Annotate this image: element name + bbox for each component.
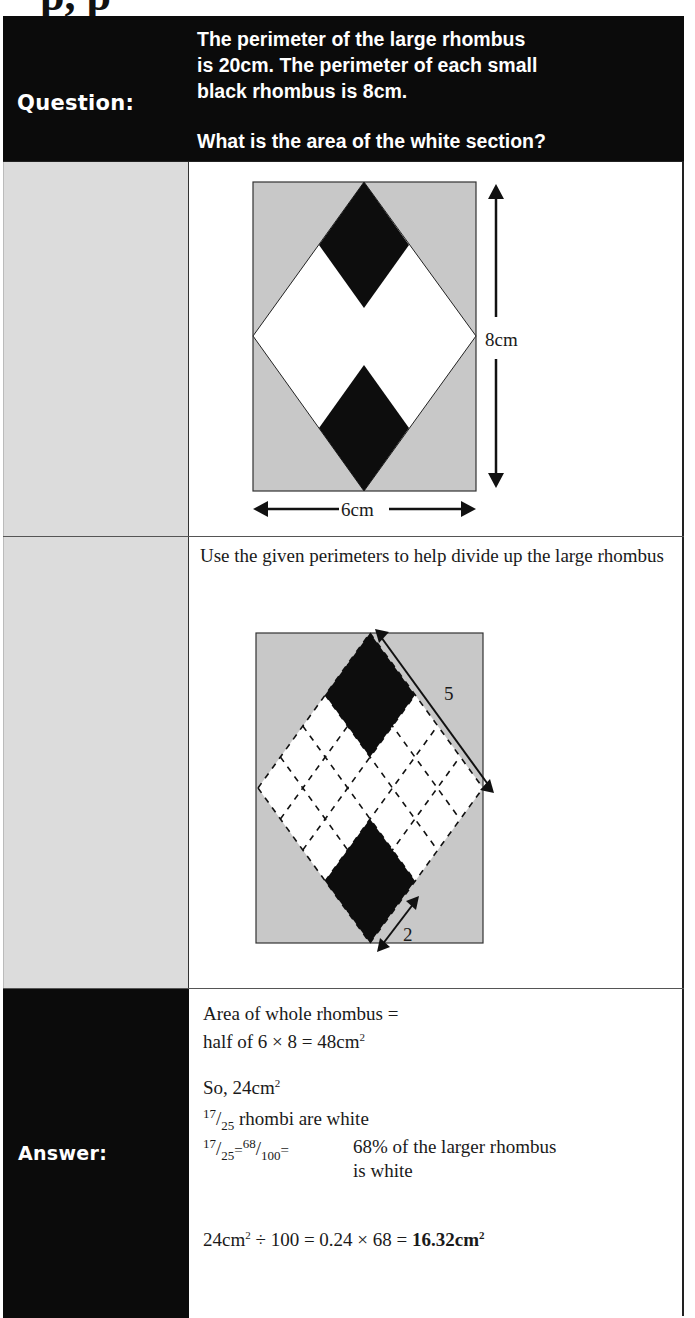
answer-line-5-text: 68% of the larger rhombus	[353, 1136, 556, 1158]
question-label: Question:	[17, 91, 134, 115]
answer-text: half of 6 × 8 = 48cm	[203, 1031, 360, 1052]
answer-line-1: Area of whole rhombus =	[203, 1003, 398, 1025]
answer-label: Answer:	[18, 1142, 107, 1164]
fraction-denominator: 25	[221, 1118, 234, 1133]
answer-label-cell: Answer:	[3, 989, 189, 1318]
question-line: black rhombus is 8cm.	[197, 80, 407, 102]
answer-text: is white	[353, 1160, 413, 1181]
answer-line-5: 17/25=68/100=	[203, 1136, 289, 1164]
question-prompt: What is the area of the white section?	[197, 128, 677, 154]
fraction-numerator: 17	[203, 1136, 216, 1151]
final-answer: 16.32cm	[412, 1229, 479, 1250]
answer-line-6: 24cm2 ÷ 100 = 0.24 × 68 = 16.32cm2	[203, 1229, 485, 1251]
answer-text: 68% of the larger rhombus	[353, 1136, 556, 1157]
answer-text: ÷ 100 = 0.24 × 68 =	[251, 1229, 412, 1250]
fraction-numerator: 17	[203, 1106, 216, 1121]
hint-label-cell	[3, 537, 189, 988]
superscript: 2	[479, 1229, 485, 1241]
answer-text: So, 24cm	[203, 1077, 275, 1098]
equals-sign: =	[281, 1142, 289, 1158]
answer-line-5-text-b: is white	[353, 1160, 413, 1182]
answer-line-4: 17/25 rhombi are white	[203, 1106, 369, 1134]
height-label: 8cm	[485, 329, 518, 350]
question-text: The perimeter of the large rhombus is 20…	[197, 26, 677, 154]
diagram-label-cell	[3, 162, 189, 536]
superscript: 2	[275, 1077, 281, 1089]
question-text-cell: The perimeter of the large rhombus is 20…	[189, 16, 684, 161]
question-row: Question: The perimeter of the large rho…	[3, 16, 684, 161]
hint-row: Use the given perimeters to help divide …	[3, 536, 684, 988]
answer-line-2: half of 6 × 8 = 48cm2	[203, 1031, 365, 1053]
fraction-numerator: 68	[243, 1136, 256, 1151]
superscript: 2	[360, 1031, 366, 1043]
answer-text: rhombi are white	[239, 1108, 369, 1129]
answer-text: Area of whole rhombus =	[203, 1003, 398, 1024]
width-label: 6cm	[341, 499, 374, 520]
diagram-cell: 8cm 6cm	[189, 162, 684, 536]
question-line: is 20cm. The perimeter of each small	[197, 54, 537, 76]
equals-sign: =	[234, 1142, 242, 1158]
answer-line-3: So, 24cm2	[203, 1077, 280, 1099]
answer-text: 24cm	[203, 1229, 245, 1250]
divided-rhombus-diagram: 5 2	[189, 537, 684, 989]
hint-cell: Use the given perimeters to help divide …	[189, 537, 684, 988]
side-length-label: 5	[444, 683, 454, 704]
fraction-denominator: 100	[261, 1148, 281, 1163]
diagram-row: 8cm 6cm	[3, 161, 684, 536]
small-side-label: 2	[403, 924, 413, 945]
rhombus-diagram: 8cm 6cm	[189, 162, 684, 537]
question-line: The perimeter of the large rhombus	[197, 28, 525, 50]
question-label-cell: Question:	[3, 16, 189, 161]
fraction-denominator: 25	[221, 1148, 234, 1163]
